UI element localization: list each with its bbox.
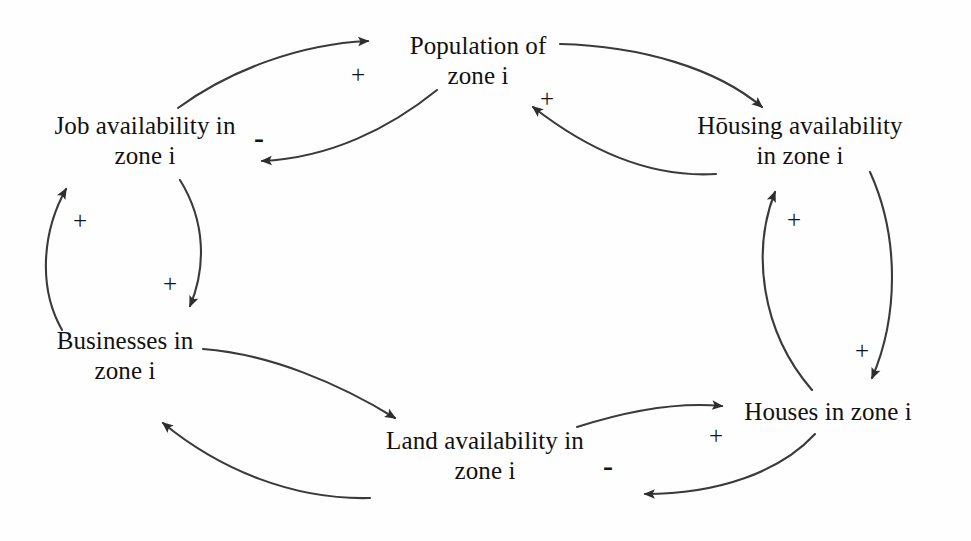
polarity-housing-availability-to-houses: + (855, 338, 869, 363)
node-job-availability-line2: zone i (54, 140, 235, 170)
edge-job-availability-to-businesses-path (180, 180, 201, 306)
node-businesses-in-zone-i: Businesses in zone i (57, 326, 194, 385)
node-job-availability-in-zone-i: Job availability in zone i (54, 111, 235, 170)
edge-land-availability-to-houses-path (577, 405, 722, 427)
node-businesses-line2: zone i (57, 355, 194, 385)
node-houses-line1: Houses in zone i (744, 397, 912, 427)
polarity-population-to-job-availability: - (254, 123, 264, 153)
edge-businesses-to-job-availability-path (46, 189, 66, 330)
node-houses-in-zone-i: Houses in zone i (744, 397, 912, 427)
edge-population-to-job-availability-path (262, 90, 437, 161)
node-population-line1: Population of (410, 31, 547, 61)
edge-businesses-to-land-availability-path (203, 349, 395, 418)
edge-houses-to-land-availability-path (645, 434, 815, 494)
edge-job-availability-to-population-path (178, 41, 368, 108)
node-population-line2: zone i (410, 60, 547, 90)
node-land-availability-line1: Land availability in (386, 426, 584, 456)
polarity-job-availability-to-population: + (351, 62, 365, 87)
edge-land-availability-to-businesses-path (163, 423, 370, 498)
edge-population-to-housing-availability-path (560, 44, 762, 107)
node-housing-availability-line2: in zone i (697, 140, 902, 170)
node-land-availability-line2: zone i (386, 455, 584, 485)
polarity-houses-to-housing-availability: + (787, 207, 801, 232)
node-housing-availability-line1: Hōusing availability (697, 111, 902, 141)
node-population-of-zone-i: Population of zone i (410, 31, 547, 90)
node-land-availability-in-zone-i: Land availability in zone i (386, 426, 584, 485)
causal-loop-diagram: Population of zone i Job availability in… (0, 0, 971, 541)
polarity-houses-to-land-availability: - (603, 451, 613, 481)
edge-housing-availability-to-population-path (533, 107, 716, 174)
polarity-job-availability-to-businesses: + (163, 271, 177, 296)
node-housing-availability-in-zone-i: Hōusing availability in zone i (697, 111, 902, 170)
polarity-businesses-to-job-availability: + (73, 208, 87, 233)
polarity-land-availability-to-houses: + (709, 423, 723, 448)
node-businesses-line1: Businesses in (57, 326, 194, 356)
edge-housing-availability-to-houses-path (870, 172, 892, 378)
node-job-availability-line1: Job availability in (54, 111, 235, 141)
polarity-housing-availability-to-population: + (540, 86, 554, 111)
